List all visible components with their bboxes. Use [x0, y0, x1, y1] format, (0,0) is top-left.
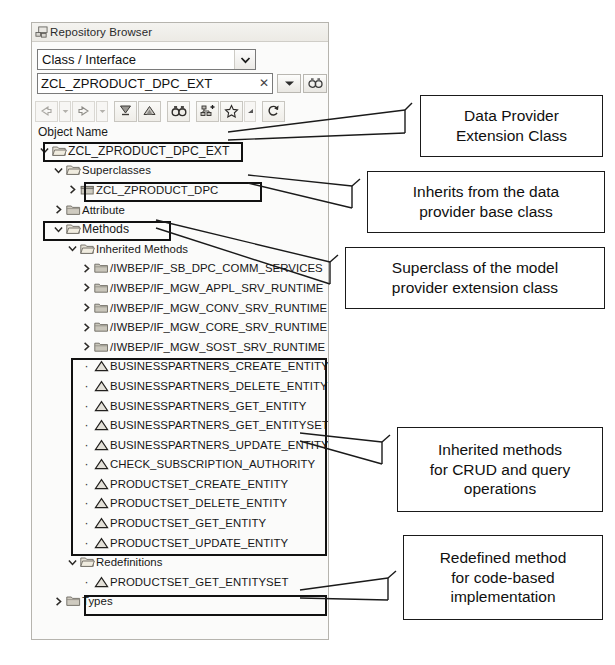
callout-line: Redefined method: [440, 548, 567, 568]
tree-item-methods[interactable]: Methods: [32, 219, 328, 239]
favorites-menu-button[interactable]: [244, 101, 256, 122]
tree-item-redefinitions[interactable]: Redefinitions: [32, 552, 328, 572]
method-icon: [93, 537, 110, 549]
favorites-button[interactable]: [220, 101, 243, 122]
chevron-right-icon[interactable]: [80, 303, 93, 312]
method-icon: [93, 400, 110, 412]
chevron-down-icon[interactable]: [66, 244, 79, 253]
tree-item-iwbep-if-mgw-appl-srv-runtime[interactable]: /IWBEP/IF_MGW_APPL_SRV_RUNTIME: [32, 278, 328, 298]
folder-open-icon: [51, 145, 68, 157]
chevron-right-icon[interactable]: [80, 283, 93, 292]
tree-leaf-marker: ·: [80, 498, 93, 508]
chevron-right-icon[interactable]: [66, 185, 79, 194]
tree-item-attribute[interactable]: Attribute: [32, 200, 328, 220]
tree-leaf-marker: ·: [80, 479, 93, 489]
tree-item-superclasses[interactable]: Superclasses: [32, 161, 328, 181]
tree-item-label: BUSINESSPARTNERS_UPDATE_ENTITY: [110, 439, 329, 451]
chevron-right-icon[interactable]: [80, 264, 93, 273]
tree-item-iwbep-if-mgw-conv-srv-runtime[interactable]: /IWBEP/IF_MGW_CONV_SRV_RUNTIME: [32, 298, 328, 318]
search-input[interactable]: ZCL_ZPRODUCT_DPC_EXT ✕: [37, 73, 273, 94]
chevron-down-icon[interactable]: [52, 166, 65, 175]
class-icon: [79, 184, 96, 196]
repository-browser-icon: [35, 26, 48, 39]
tree-leaf-marker: ·: [80, 440, 93, 450]
tree-item-iwbep-if-mgw-sost-srv-runtime[interactable]: /IWBEP/IF_MGW_SOST_SRV_RUNTIME: [32, 337, 328, 357]
add-object-button[interactable]: [196, 101, 219, 122]
chevron-down-icon[interactable]: [66, 558, 79, 567]
chevron-right-icon[interactable]: [80, 323, 93, 332]
link-to-editor-button[interactable]: [138, 101, 161, 122]
tree-item-businesspartners-update-entity[interactable]: ·BUSINESSPARTNERS_UPDATE_ENTITY: [32, 435, 328, 455]
callout-line: Inherits from the data: [413, 182, 559, 202]
search-history-button[interactable]: [277, 74, 301, 93]
folder-icon: [65, 204, 82, 216]
tree-item-businesspartners-create-entity[interactable]: ·BUSINESSPARTNERS_CREATE_ENTITY: [32, 357, 328, 377]
search-row: ZCL_ZPRODUCT_DPC_EXT ✕: [37, 73, 326, 95]
callout-data-provider-extension-class: Data Provider Extension Class: [420, 95, 603, 157]
clear-x-icon[interactable]: ✕: [256, 74, 272, 93]
tree-item-label: /IWBEP/IF_MGW_SOST_SRV_RUNTIME: [110, 341, 325, 353]
interface-icon: [93, 341, 110, 353]
back-history-button[interactable]: [59, 101, 71, 122]
repository-browser-panel: Repository Browser Class / Interface ZCL…: [31, 22, 329, 640]
panel-header: Repository Browser: [32, 23, 328, 42]
tree-item-productset-get-entityset[interactable]: ·PRODUCTSET_GET_ENTITYSET: [32, 572, 328, 592]
tree-item-label: PRODUCTSET_CREATE_ENTITY: [110, 478, 288, 490]
tree-leaf-marker: ·: [80, 420, 93, 430]
method-icon: [93, 380, 110, 392]
collapse-all-button[interactable]: [114, 101, 137, 122]
tree-leaf-marker: ·: [80, 577, 93, 587]
tree-item-label: ZCL_ZPRODUCT_DPC: [96, 184, 218, 196]
tree-item-iwbep-if-sb-dpc-comm-services[interactable]: /IWBEP/IF_SB_DPC_COMM_SERVICES: [32, 259, 328, 279]
object-type-combo[interactable]: Class / Interface: [37, 49, 256, 70]
tree-item-productset-update-entity[interactable]: ·PRODUCTSET_UPDATE_ENTITY: [32, 533, 328, 553]
forward-button[interactable]: [72, 101, 95, 122]
tree-item-label: BUSINESSPARTNERS_GET_ENTITYSET: [110, 419, 329, 431]
callout-inherited-crud-methods: Inherited methods for CRUD and query ope…: [397, 427, 603, 512]
tree-item-types[interactable]: Types: [32, 592, 328, 612]
tree-item-iwbep-if-mgw-core-srv-runtime[interactable]: /IWBEP/IF_MGW_CORE_SRV_RUNTIME: [32, 317, 328, 337]
method-icon: [93, 478, 110, 490]
chevron-down-icon[interactable]: [234, 50, 255, 69]
callout-line: Superclass of the model: [392, 258, 558, 278]
chevron-right-icon[interactable]: [52, 597, 65, 606]
callout-redefined-method: Redefined method for code-based implemen…: [403, 535, 603, 620]
back-button[interactable]: [35, 101, 58, 122]
tree-item-label: Methods: [82, 222, 129, 236]
method-icon: [93, 458, 110, 470]
chevron-right-icon[interactable]: [80, 342, 93, 351]
find-button[interactable]: [167, 101, 190, 122]
interface-icon: [93, 302, 110, 314]
chevron-right-icon[interactable]: [52, 205, 65, 214]
tree-leaf-marker: ·: [80, 518, 93, 528]
method-icon: [93, 497, 110, 509]
method-icon: [93, 360, 110, 372]
tree-item-label: ZCL_ZPRODUCT_DPC_EXT: [68, 144, 230, 158]
search-go-button[interactable]: [303, 74, 327, 93]
method-icon: [93, 576, 110, 588]
tree-item-zcl-zproduct-dpc-ext[interactable]: ZCL_ZPRODUCT_DPC_EXT: [32, 141, 328, 161]
tree-item-businesspartners-delete-entity[interactable]: ·BUSINESSPARTNERS_DELETE_ENTITY: [32, 376, 328, 396]
folder-open-icon: [79, 556, 96, 568]
tree-item-productset-delete-entity[interactable]: ·PRODUCTSET_DELETE_ENTITY: [32, 494, 328, 514]
tree-item-businesspartners-get-entity[interactable]: ·BUSINESSPARTNERS_GET_ENTITY: [32, 396, 328, 416]
callout-line: for code-based: [440, 568, 567, 588]
method-icon: [93, 517, 110, 529]
tree-item-label: /IWBEP/IF_MGW_CORE_SRV_RUNTIME: [110, 321, 327, 333]
chevron-down-icon[interactable]: [52, 225, 65, 234]
refresh-button[interactable]: [262, 101, 285, 122]
tree-item-label: Superclasses: [82, 164, 151, 176]
chevron-down-icon[interactable]: [38, 146, 51, 155]
tree-item-businesspartners-get-entityset[interactable]: ·BUSINESSPARTNERS_GET_ENTITYSET: [32, 415, 328, 435]
tree-item-productset-create-entity[interactable]: ·PRODUCTSET_CREATE_ENTITY: [32, 474, 328, 494]
tree-item-label: BUSINESSPARTNERS_CREATE_ENTITY: [110, 360, 329, 372]
callout-line: provider extension class: [392, 278, 558, 298]
tree-item-zcl-zproduct-dpc[interactable]: ZCL_ZPRODUCT_DPC: [32, 180, 328, 200]
tree-item-check-subscription-authority[interactable]: ·CHECK_SUBSCRIPTION_AUTHORITY: [32, 455, 328, 475]
tree-item-label: Types: [82, 595, 113, 607]
tree-item-productset-get-entity[interactable]: ·PRODUCTSET_GET_ENTITY: [32, 513, 328, 533]
tree-item-inherited-methods[interactable]: Inherited Methods: [32, 239, 328, 259]
callout-line: provider base class: [413, 202, 559, 222]
forward-history-button[interactable]: [96, 101, 108, 122]
callout-line: operations: [430, 479, 570, 499]
